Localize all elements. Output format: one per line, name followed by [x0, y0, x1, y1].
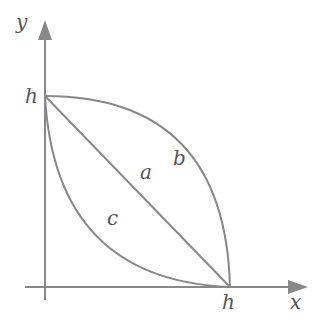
- curve-c-label: c: [107, 208, 118, 228]
- curve-b-label: b: [173, 148, 186, 168]
- line-a-label: a: [140, 162, 152, 182]
- y-tick-h: h: [25, 86, 38, 106]
- y-axis-label: y: [16, 12, 27, 32]
- x-tick-h: h: [222, 292, 235, 312]
- diagram: y x h h b a c: [0, 0, 321, 324]
- line-a: [45, 96, 230, 287]
- y-axis-arrow-icon: [38, 20, 52, 40]
- diagram-graphics: [0, 0, 321, 324]
- x-axis-label: x: [290, 292, 301, 312]
